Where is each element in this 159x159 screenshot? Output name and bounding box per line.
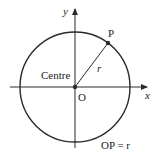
y-axis-label: y [62, 5, 68, 17]
radius-label: r [97, 62, 102, 74]
x-axis-label: x [144, 89, 150, 101]
point-p [106, 41, 110, 45]
centre-label: Centre [41, 69, 70, 81]
equation-label: OP = r [101, 139, 130, 151]
origin-label: O [78, 91, 86, 103]
circle-diagram: y x P O Centre r OP = r [0, 0, 159, 159]
radius-line [75, 43, 108, 87]
origin-point [73, 85, 77, 89]
point-p-label: P [108, 27, 114, 39]
